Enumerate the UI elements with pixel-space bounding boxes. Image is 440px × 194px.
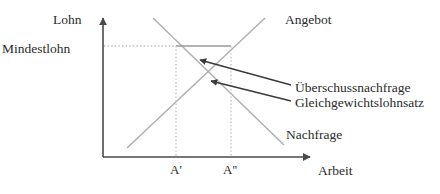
curve-label-angebot: Angebot bbox=[285, 13, 332, 27]
curve-label-nachfrage: Nachfrage bbox=[286, 128, 342, 142]
diagram-canvas: Lohn Mindestlohn Arbeit A' A'' Angebot N… bbox=[0, 0, 440, 194]
annotation-label-gleichgewichtslohnsatz: Gleichgewichtslohnsatz bbox=[295, 96, 424, 110]
y-axis-tick-label-mindestlohn: Mindestlohn bbox=[2, 42, 70, 56]
x-axis-label: Arbeit bbox=[318, 164, 353, 178]
equilibrium-wage-arrow bbox=[211, 81, 291, 101]
annotation-label-ueberschussnachfrage: Überschussnachfrage bbox=[295, 81, 410, 95]
supply-curve-angebot bbox=[127, 18, 265, 148]
y-axis-label: Lohn bbox=[53, 13, 82, 27]
x-axis-tick-label-a-prime: A' bbox=[170, 163, 182, 176]
x-axis-tick-label-a-double-prime: A'' bbox=[223, 163, 237, 176]
demand-curve-nachfrage bbox=[153, 18, 284, 145]
